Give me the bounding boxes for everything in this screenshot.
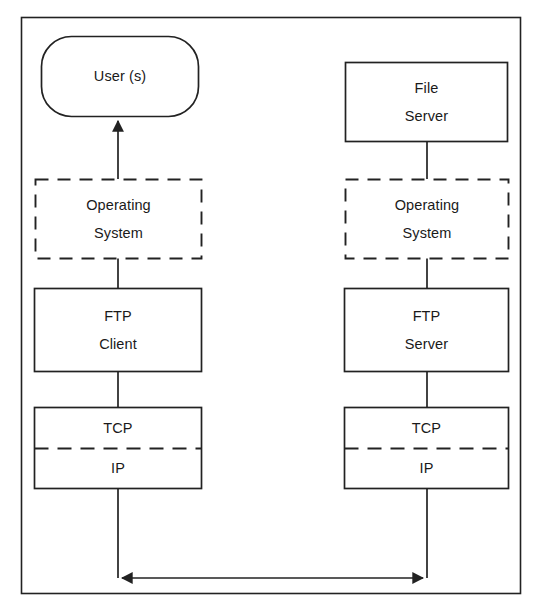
file-server-node-shape[interactable] [346, 63, 508, 142]
node-shape-layer [35, 37, 509, 489]
ftp-client-node-shape[interactable] [35, 289, 202, 372]
ftp-server-node-shape[interactable] [345, 289, 509, 372]
operating-system-server-node-shape[interactable] [346, 180, 509, 259]
diagram-canvas [0, 0, 542, 613]
operating-system-client-node-shape[interactable] [36, 180, 202, 259]
ftp-architecture-diagram: User (s) File Server Operating System Op… [0, 0, 542, 613]
users-node-shape[interactable] [42, 37, 199, 117]
